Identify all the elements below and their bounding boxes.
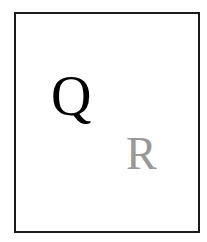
letter-r: R (126, 131, 157, 177)
frame-box: Q R (14, 12, 200, 233)
letter-q: Q (51, 68, 91, 124)
